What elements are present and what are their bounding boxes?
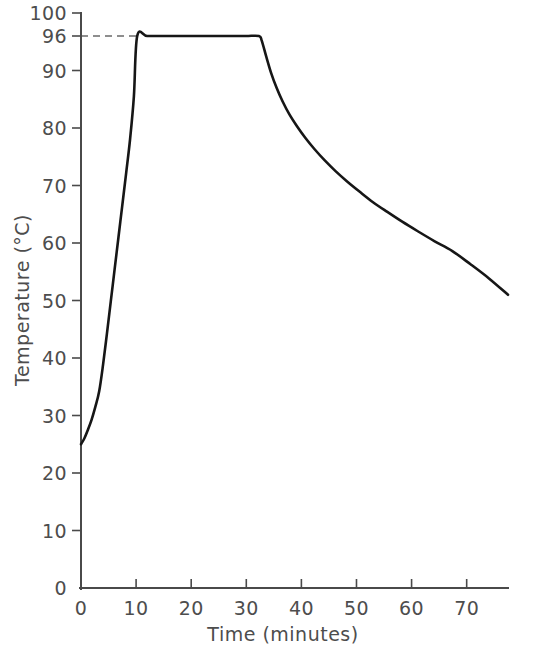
y-axis-tick-label: 40 [42, 347, 67, 369]
y-axis-tick-label: 96 [42, 25, 67, 47]
y-axis-tick-label: 80 [42, 117, 67, 139]
x-axis-tick-label: 60 [399, 597, 424, 619]
x-axis-tick-label: 20 [179, 597, 204, 619]
chart-figure: 010203040506070809096100 010203040506070… [0, 0, 543, 650]
y-axis-title: Temperature (°C) [11, 214, 33, 387]
y-axis-tick-label: 90 [42, 60, 67, 82]
y-axis-tick-label: 10 [42, 520, 67, 542]
x-axis-tick-label: 70 [454, 597, 479, 619]
y-axis-tick-label: 100 [30, 2, 67, 24]
x-axis-tick-label: 50 [344, 597, 369, 619]
y-axis-tick-label: 30 [42, 405, 67, 427]
x-axis-tick-label: 30 [234, 597, 259, 619]
x-axis-tick-label: 10 [124, 597, 149, 619]
x-axis-tick-label: 40 [289, 597, 314, 619]
y-axis-tick-label: 20 [42, 462, 67, 484]
y-axis-tick-label: 50 [42, 290, 67, 312]
y-axis-tick-label: 0 [55, 577, 68, 599]
temperature-time-line-chart: 010203040506070809096100 010203040506070… [0, 0, 543, 650]
x-axis-tick-label: 0 [75, 597, 88, 619]
y-axis-tick-label: 60 [42, 232, 67, 254]
x-axis-title: Time (minutes) [206, 623, 358, 645]
y-axis-tick-label: 70 [42, 175, 67, 197]
